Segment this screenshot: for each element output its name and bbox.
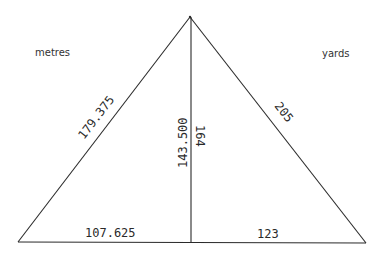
left-base-label: 107.625 bbox=[85, 226, 136, 240]
right-base-label: 123 bbox=[257, 227, 279, 241]
apex-point bbox=[189, 16, 191, 18]
base-line bbox=[18, 242, 366, 243]
right-hypotenuse-label: 205 bbox=[272, 99, 296, 125]
right-height-label: 164 bbox=[193, 125, 207, 147]
unit-label-yards: yards bbox=[322, 48, 350, 59]
unit-label-metres: metres bbox=[35, 47, 70, 58]
left-height-label: 143.500 bbox=[176, 117, 190, 168]
triangle-diagram: metres yards 179.375 205 143.500 164 107… bbox=[0, 0, 383, 261]
diagram-canvas: metres yards 179.375 205 143.500 164 107… bbox=[0, 0, 383, 261]
left-hypotenuse-label: 179.375 bbox=[75, 93, 117, 142]
